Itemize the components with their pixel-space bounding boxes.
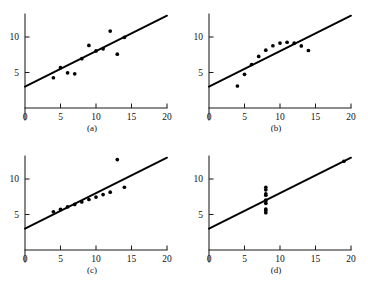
scatter-panel-d: 05101520510 (d) [184, 142, 368, 284]
data-point [285, 40, 289, 44]
caption-svg-c: (c) [0, 260, 184, 278]
data-point [292, 41, 296, 45]
tick-labels-c: 05101520510 [10, 174, 173, 264]
data-point [87, 44, 91, 48]
tick-marks-b [209, 37, 351, 108]
data-point [59, 207, 63, 211]
data-points-b [236, 40, 311, 87]
data-point [115, 52, 119, 56]
data-point [278, 41, 282, 45]
data-point [66, 71, 70, 75]
data-point [257, 55, 261, 59]
data-points-c [52, 158, 127, 214]
data-point [108, 29, 112, 33]
data-points-d [264, 159, 346, 214]
panel-grid: 05101520510 (a) 05101520510 (b) [0, 0, 368, 284]
data-point [73, 203, 77, 207]
scatter-panel-b: 05101520510 (b) [184, 0, 368, 142]
data-point [264, 48, 268, 52]
data-point [94, 195, 98, 199]
data-point [101, 193, 105, 197]
caption-svg-d: (d) [184, 260, 368, 278]
data-point [236, 84, 240, 88]
data-point [243, 72, 247, 76]
y-tick-label-b-5: 5 [198, 68, 203, 78]
data-point [307, 49, 311, 53]
data-point [250, 63, 254, 67]
tick-labels-a: 05101520510 [10, 32, 173, 122]
panel-caption-d: (d) [271, 265, 282, 275]
data-point [123, 185, 127, 189]
data-point [108, 190, 112, 194]
data-point [101, 47, 105, 51]
data-point [264, 192, 268, 196]
data-point [66, 205, 70, 209]
data-point [264, 199, 268, 203]
data-point [115, 158, 119, 162]
regression-line-c [25, 158, 167, 229]
scatter-panel-c: 05101520510 (c) [0, 142, 184, 284]
data-point [123, 35, 127, 39]
data-point [94, 49, 98, 53]
data-point [271, 44, 275, 48]
y-tick-label-c-10: 10 [10, 174, 20, 184]
tick-marks-d [209, 179, 351, 250]
data-point [299, 44, 303, 48]
data-point [73, 72, 77, 76]
caption-svg-a: (a) [0, 118, 184, 136]
regression-line-b [209, 16, 351, 87]
data-point [52, 210, 56, 214]
y-tick-label-c-5: 5 [14, 210, 19, 220]
anscombe-quartet-figure: 05101520510 (a) 05101520510 (b) [0, 0, 368, 284]
tick-labels-d: 05101520510 [194, 174, 357, 264]
y-tick-label-a-5: 5 [14, 68, 19, 78]
tick-marks-a [25, 37, 167, 108]
y-tick-label-d-5: 5 [198, 210, 203, 220]
panel-caption-c: (c) [87, 265, 97, 275]
data-point [52, 76, 56, 80]
data-point [264, 188, 268, 192]
data-point [342, 159, 346, 163]
tick-labels-b: 05101520510 [194, 32, 357, 122]
data-point [80, 57, 84, 61]
data-point [59, 66, 63, 70]
panel-caption-b: (b) [271, 123, 282, 133]
y-tick-label-d-10: 10 [194, 174, 204, 184]
tick-marks-c [25, 179, 167, 250]
scatter-panel-a: 05101520510 (a) [0, 0, 184, 142]
regression-line-d [209, 158, 351, 229]
y-tick-label-b-10: 10 [194, 32, 204, 42]
y-tick-label-a-10: 10 [10, 32, 20, 42]
caption-svg-b: (b) [184, 118, 368, 136]
data-point [264, 209, 268, 213]
data-point [87, 198, 91, 202]
panel-caption-a: (a) [87, 123, 97, 133]
data-point [80, 200, 84, 204]
